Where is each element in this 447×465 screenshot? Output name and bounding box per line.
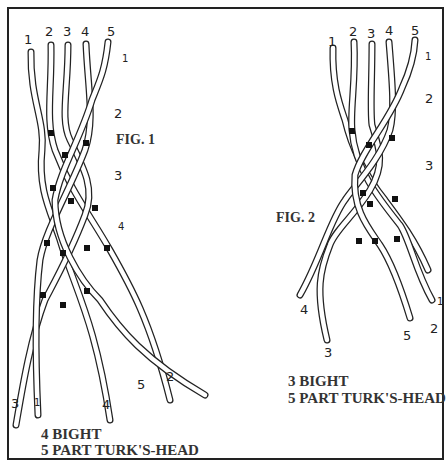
fig1-caption-line2: 5 PART TURK'S-HEAD: [41, 442, 199, 458]
fig1-caption-line1: 4 BIGHT: [41, 426, 101, 442]
fig1-strand-bottom-2: 2: [166, 369, 174, 384]
fig2-caption-line2: 5 PART TURK'S-HEAD: [288, 390, 446, 406]
fig1-strand-top-4: 4: [81, 24, 89, 39]
fig2-strand-bottom-2: 2: [430, 321, 438, 336]
turks-head-illustration: 1 2 3 4 5 1 2 3 4 FIG. 1 3 1 4 5 2 4 BIG…: [0, 0, 447, 465]
fig2-strand-bottom-5: 5: [403, 328, 411, 343]
fig2-title: FIG. 2: [276, 210, 315, 225]
fig1-strand-bottom-1: 1: [34, 397, 40, 408]
fig2-strand-top-4: 4: [385, 23, 393, 38]
fig1-braid: [16, 42, 205, 425]
fig2-strand-top-3: 3: [367, 26, 375, 41]
fig2-strand-bottom-3: 3: [324, 345, 332, 360]
fig1-strand-top-1: 1: [24, 32, 32, 47]
fig1-strand-bottom-4: 4: [102, 397, 110, 412]
fig1-strand-top-2: 2: [45, 24, 53, 39]
fig1-strand-top-5: 5: [107, 24, 115, 39]
fig1-title: FIG. 1: [116, 132, 155, 147]
fig1-strand-top-3: 3: [63, 24, 71, 39]
fig2-row-1: 1: [425, 51, 431, 62]
fig1-row-3: 3: [114, 168, 122, 183]
fig2-braid: [300, 40, 432, 340]
fig2-strand-bottom-4: 4: [300, 302, 308, 317]
fig1-row-4: 4: [118, 221, 124, 232]
fig2-row-2: 2: [425, 91, 433, 106]
fig2-strand-top-2: 2: [349, 24, 357, 39]
fig1-strand-bottom-3: 3: [11, 396, 19, 411]
fig2-strand-top-1: 1: [328, 34, 336, 49]
fig1-row-1: 1: [122, 53, 128, 64]
fig2-row-3: 3: [425, 158, 433, 173]
fig2-caption-line1: 3 BIGHT: [288, 373, 348, 389]
fig2-strand-top-5: 5: [411, 23, 419, 38]
fig1-strand-bottom-5: 5: [137, 377, 145, 392]
fig2-strand-bottom-1: 1: [437, 296, 443, 307]
fig1-row-2: 2: [114, 106, 122, 121]
